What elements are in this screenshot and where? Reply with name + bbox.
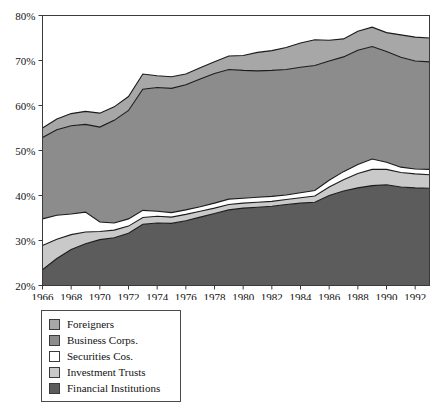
x-tick-label: 1984 xyxy=(290,291,313,301)
y-tick-label: 70% xyxy=(15,55,35,67)
legend-swatch xyxy=(49,383,60,394)
legend-swatch xyxy=(49,335,60,346)
y-tick-label: 50% xyxy=(15,145,35,157)
x-tick-label: 1974 xyxy=(146,291,169,301)
stacked-area-chart: 20%30%40%50%60%70%80% 196619681970197219… xyxy=(0,0,438,300)
x-axis-tick-labels: 1966196819701972197419761978198019821984… xyxy=(32,291,427,301)
x-tick-label: 1966 xyxy=(32,291,55,301)
x-tick-label: 1992 xyxy=(404,291,426,301)
legend-item-label: Business Corps. xyxy=(67,335,138,346)
legend-item-label: Financial Institutions xyxy=(67,383,160,394)
legend-item: Financial Institutions xyxy=(49,380,174,396)
legend-swatch xyxy=(49,319,60,330)
legend-swatch xyxy=(49,351,60,362)
x-tick-label: 1980 xyxy=(232,291,255,301)
x-tick-label: 1978 xyxy=(204,291,227,301)
chart-areas xyxy=(43,27,430,285)
legend-item: Securities Cos. xyxy=(49,348,174,364)
y-tick-label: 40% xyxy=(15,190,35,202)
legend-item: Foreigners xyxy=(49,316,174,332)
chart-canvas: 20%30%40%50%60%70%80% 196619681970197219… xyxy=(0,0,438,300)
y-tick-label: 80% xyxy=(15,10,35,22)
x-tick-label: 1982 xyxy=(261,291,283,301)
y-axis-tick-labels: 20%30%40%50%60%70%80% xyxy=(15,10,35,292)
legend-item-label: Securities Cos. xyxy=(67,351,133,362)
x-tick-label: 1970 xyxy=(89,291,112,301)
x-tick-label: 1968 xyxy=(60,291,83,301)
legend-swatch xyxy=(49,367,60,378)
legend-item: Investment Trusts xyxy=(49,364,174,380)
chart-page: 20%30%40%50%60%70%80% 196619681970197219… xyxy=(0,0,438,418)
chart-legend: ForeignersBusiness Corps.Securities Cos.… xyxy=(41,310,181,402)
x-tick-label: 1972 xyxy=(118,291,140,301)
x-tick-label: 1976 xyxy=(175,291,198,301)
legend-item-label: Investment Trusts xyxy=(67,367,146,378)
y-tick-label: 60% xyxy=(15,100,35,112)
x-tick-label: 1988 xyxy=(347,291,370,301)
y-tick-label: 30% xyxy=(15,235,35,247)
legend-item-label: Foreigners xyxy=(67,319,114,330)
legend-item: Business Corps. xyxy=(49,332,174,348)
x-tick-label: 1986 xyxy=(318,291,341,301)
x-tick-label: 1990 xyxy=(376,291,399,301)
